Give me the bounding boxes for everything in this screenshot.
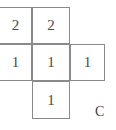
cell-value: 2 <box>47 18 55 33</box>
grid-figure: 2 2 1 1 1 1 C <box>0 0 116 130</box>
grid-cell-row0-col1: 2 <box>32 7 70 44</box>
cell-value: 1 <box>47 93 55 108</box>
grid-cell-row2-col1: 1 <box>32 81 70 119</box>
figure-label-c: C <box>95 105 104 119</box>
grid-cell-row1-col1: 1 <box>32 44 70 81</box>
cell-value: 1 <box>12 55 20 70</box>
cell-value: 1 <box>84 55 92 70</box>
grid-cell-row1-col0: 1 <box>0 44 32 81</box>
cell-value: 1 <box>47 55 55 70</box>
cell-value: 2 <box>12 18 20 33</box>
grid-cell-row1-col2: 1 <box>70 44 105 81</box>
grid-cell-row0-col0: 2 <box>0 7 32 44</box>
